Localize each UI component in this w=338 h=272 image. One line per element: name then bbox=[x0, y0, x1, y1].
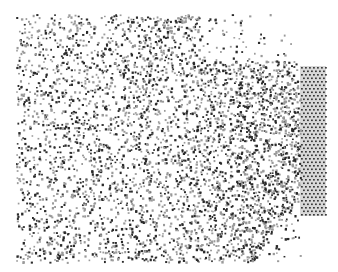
particle-simulation-canvas bbox=[0, 0, 338, 272]
